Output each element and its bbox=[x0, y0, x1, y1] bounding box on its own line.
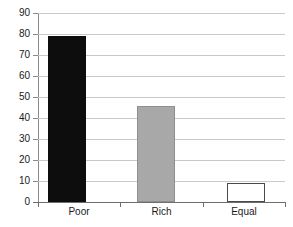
x-tick-label-equal: Equal bbox=[203, 206, 285, 218]
x-tick-mark-3 bbox=[285, 202, 286, 207]
y-tick-label-30: 30 bbox=[4, 134, 30, 144]
y-tick-label-40: 40 bbox=[4, 113, 30, 123]
y-tick-label-80: 80 bbox=[4, 29, 30, 39]
plot-area bbox=[38, 13, 285, 202]
bar-chart: 90 80 70 60 50 40 30 20 10 0 bbox=[0, 0, 293, 227]
y-tick-label-90: 90 bbox=[4, 8, 30, 18]
y-tick-label-20: 20 bbox=[4, 155, 30, 165]
gridline-80 bbox=[38, 34, 285, 35]
y-tick-label-70: 70 bbox=[4, 50, 30, 60]
x-tick-label-rich: Rich bbox=[120, 206, 203, 218]
y-axis-tick-labels: 90 80 70 60 50 40 30 20 10 0 bbox=[0, 0, 30, 227]
gridline-0 bbox=[38, 202, 285, 203]
gridline-90 bbox=[38, 13, 285, 14]
bar-equal bbox=[227, 183, 265, 202]
bar-poor bbox=[48, 36, 86, 202]
y-tick-label-60: 60 bbox=[4, 71, 30, 81]
bar-rich bbox=[137, 106, 175, 202]
y-tick-label-50: 50 bbox=[4, 92, 30, 102]
x-tick-label-poor: Poor bbox=[38, 206, 120, 218]
y-tick-label-10: 10 bbox=[4, 176, 30, 186]
y-tick-label-0: 0 bbox=[4, 197, 30, 207]
